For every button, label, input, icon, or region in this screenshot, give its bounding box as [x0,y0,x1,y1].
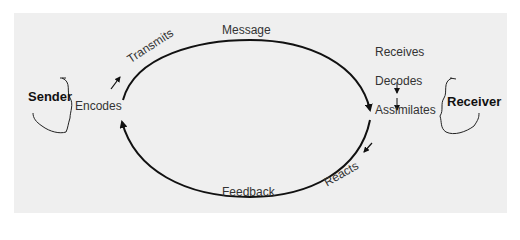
sender-label: Sender [28,90,72,103]
assimilates-label: Assimilates [375,104,436,116]
encodes-label: Encodes [75,100,122,112]
receives-label: Receives [375,46,424,58]
message-arc [123,40,370,110]
decodes-label: Decodes [375,75,422,87]
message-label: Message [222,24,271,36]
receiver-label: Receiver [447,95,501,108]
reacts-arrow [364,143,372,152]
sender-face-icon [33,78,72,133]
transmits-arrow [111,77,120,89]
feedback-label: Feedback [222,186,275,198]
